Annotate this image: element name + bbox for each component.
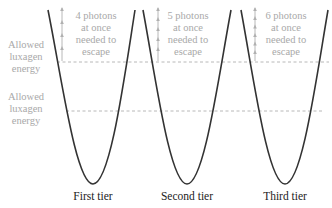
svg-text:escape: escape [174, 46, 202, 57]
svg-text:at once: at once [81, 22, 111, 33]
svg-text:5 photons: 5 photons [167, 10, 208, 21]
svg-text:energy: energy [12, 63, 41, 74]
svg-text:escape: escape [82, 46, 110, 57]
svg-text:Allowed: Allowed [8, 39, 45, 50]
tier-2: 5 photons at once needed to escape Secon… [143, 7, 231, 202]
potential-well-diagram: Allowed luxagen energy Allowed luxagen e… [0, 0, 332, 208]
tier-label-3: Third tier [263, 190, 307, 202]
tier-1: 4 photons at once needed to escape First… [48, 7, 135, 202]
svg-text:at once: at once [173, 22, 203, 33]
svg-text:needed to: needed to [168, 34, 209, 45]
escape-arrow-3 [253, 7, 257, 61]
svg-text:Allowed: Allowed [8, 91, 45, 102]
svg-text:needed to: needed to [266, 34, 307, 45]
svg-text:energy: energy [12, 115, 41, 126]
tier-label-2: Second tier [161, 190, 213, 202]
svg-text:6 photons: 6 photons [265, 10, 306, 21]
escape-arrow-2 [156, 7, 160, 61]
svg-text:4 photons: 4 photons [75, 10, 116, 21]
svg-text:luxagen: luxagen [9, 51, 43, 62]
upper-energy-label: Allowed luxagen energy [8, 39, 45, 74]
svg-text:at once: at once [271, 22, 301, 33]
tier-label-1: First tier [73, 190, 112, 202]
tier-3: 6 photons at once needed to escape Third… [241, 7, 328, 202]
svg-text:needed to: needed to [76, 34, 117, 45]
escape-arrow-1 [60, 7, 64, 61]
svg-text:luxagen: luxagen [9, 103, 43, 114]
lower-energy-label: Allowed luxagen energy [8, 91, 45, 126]
svg-text:escape: escape [272, 46, 300, 57]
